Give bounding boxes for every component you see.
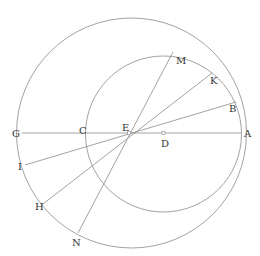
point-labels-group: MKBADECGIHN [12, 55, 252, 248]
point-label-N: N [72, 237, 81, 248]
point-label-G: G [12, 128, 20, 139]
center-D-marker [162, 132, 165, 135]
point-label-A: A [243, 128, 252, 139]
point-label-C: C [79, 125, 87, 136]
point-label-I: I [18, 161, 22, 172]
geometry-diagram: MKBADECGIHN [0, 0, 260, 256]
lines-group [22, 52, 241, 233]
point-label-M: M [176, 55, 186, 66]
point-label-K: K [210, 75, 218, 86]
point-label-B: B [229, 103, 236, 114]
line-M-N [78, 52, 173, 233]
point-label-E: E [122, 122, 129, 133]
line-K-H [43, 73, 212, 204]
point-label-D: D [161, 138, 169, 149]
point-label-H: H [35, 201, 44, 212]
